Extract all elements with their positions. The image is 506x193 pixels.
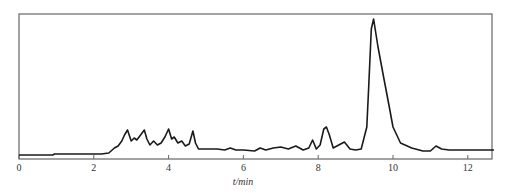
x-tick-label: 10 [388, 162, 398, 173]
x-axis-tick-labels: 024681012 [17, 162, 473, 173]
x-axis-title: t/min [233, 176, 254, 187]
x-tick-label: 12 [463, 162, 473, 173]
x-tick-label: 4 [166, 162, 171, 173]
x-tick-label: 8 [316, 162, 321, 173]
x-tick-label: 2 [91, 162, 96, 173]
x-tick-label: 6 [241, 162, 246, 173]
x-tick-label: 0 [17, 162, 22, 173]
plot-frame [19, 14, 492, 159]
chromatogram-trace [19, 19, 494, 155]
x-axis-ticks [19, 155, 468, 159]
chromatogram-chart: 024681012 t/min [0, 0, 506, 193]
